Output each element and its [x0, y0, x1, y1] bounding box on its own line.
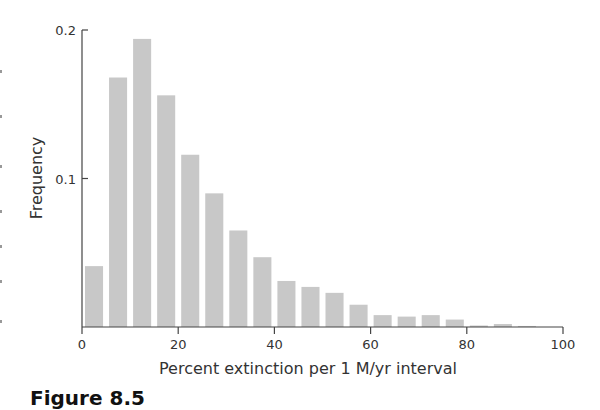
x-tick-label: 60 — [362, 337, 379, 352]
page-edge-marks — [0, 60, 4, 360]
histogram-bar — [205, 193, 223, 327]
x-tick-label: 100 — [551, 337, 576, 352]
histogram-bar — [422, 315, 440, 327]
histogram-bars — [85, 39, 536, 327]
y-axis-ticks: 0.10.2 — [55, 23, 88, 187]
y-tick-label: 0.2 — [55, 23, 76, 38]
histogram-bar — [326, 293, 344, 327]
histogram-bar — [109, 78, 127, 327]
histogram-bar — [157, 95, 175, 327]
histogram-bar — [85, 266, 103, 327]
histogram-bar — [229, 230, 247, 327]
x-tick-label: 80 — [459, 337, 476, 352]
histogram-bar — [133, 39, 151, 327]
histogram-bar — [446, 320, 464, 327]
x-tick-label: 20 — [170, 337, 187, 352]
histogram-bar — [277, 281, 295, 327]
histogram-bar — [181, 155, 199, 327]
figure-caption: Figure 8.5 — [30, 386, 145, 410]
histogram-bar — [398, 317, 416, 327]
x-axis-ticks: 020406080100 — [78, 327, 576, 352]
histogram-bar — [374, 315, 392, 327]
y-axis-title: Frequency — [27, 137, 46, 220]
y-tick-label: 0.1 — [55, 172, 76, 187]
x-axis-title: Percent extinction per 1 M/yr interval — [159, 359, 457, 378]
x-tick-label: 40 — [266, 337, 283, 352]
x-tick-label: 0 — [78, 337, 86, 352]
histogram-bar — [350, 305, 368, 327]
histogram-bar — [253, 257, 271, 327]
histogram-bar — [301, 287, 319, 327]
